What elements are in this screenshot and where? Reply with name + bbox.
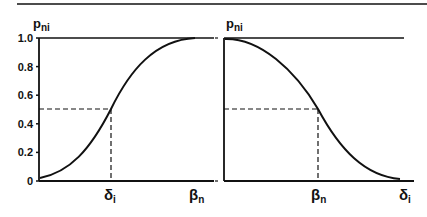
left-panel: pni 1.0 0.8 0.6 0.4 0.2 0 δi βn bbox=[18, 16, 214, 205]
right-ylabel: pni bbox=[226, 16, 243, 33]
left-ylabel: pni bbox=[33, 16, 50, 33]
left-xlabel-delta: δi bbox=[104, 186, 116, 205]
chart-canvas: pni 1.0 0.8 0.6 0.4 0.2 0 δi βn pni βn δ… bbox=[0, 0, 427, 217]
tick-0-6: 0.6 bbox=[18, 89, 33, 101]
right-panel: pni βn δi bbox=[215, 16, 414, 205]
tick-0-8: 0.8 bbox=[18, 61, 33, 73]
tick-0-2: 0.2 bbox=[18, 146, 33, 158]
tick-0: 0 bbox=[27, 175, 33, 187]
tick-0-4: 0.4 bbox=[18, 118, 34, 130]
left-xlabel-beta: βn bbox=[189, 186, 204, 205]
right-xlabel-delta: δi bbox=[399, 186, 411, 205]
tick-1-0: 1.0 bbox=[18, 32, 33, 44]
right-xlabel-beta: βn bbox=[311, 186, 326, 205]
left-curve bbox=[40, 38, 195, 178]
